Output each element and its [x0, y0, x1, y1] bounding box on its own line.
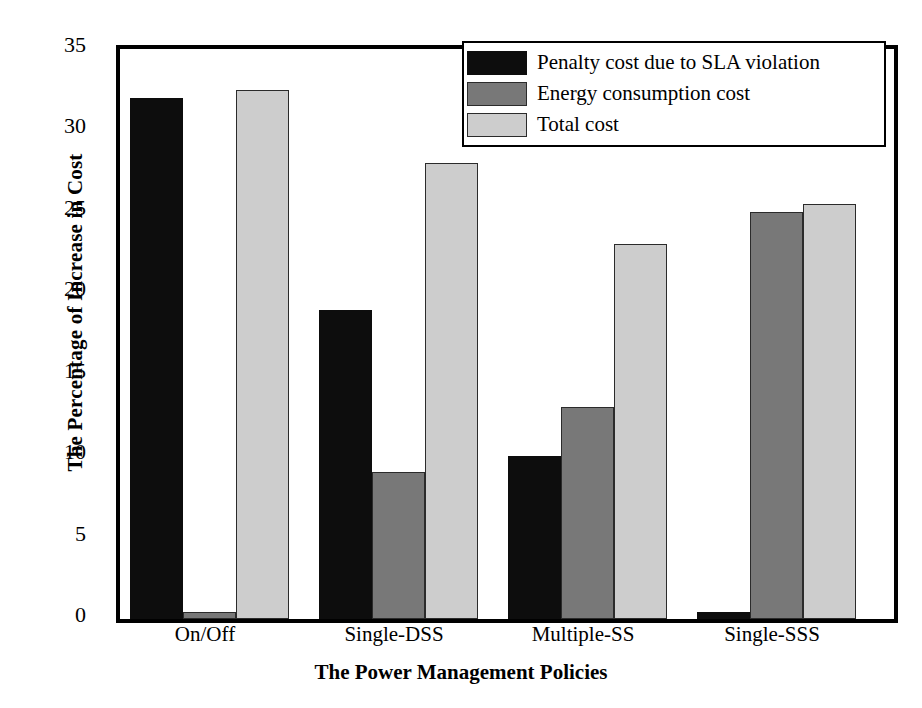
legend-swatch-icon-energy [467, 82, 527, 106]
legend-label-total: Total cost [537, 114, 619, 135]
bar [561, 407, 614, 619]
y-tick-10: 10 [40, 441, 86, 463]
bar [697, 612, 750, 619]
bar [130, 98, 183, 619]
bar [372, 472, 425, 619]
legend-entry-total-cost: Total cost [467, 109, 881, 140]
x-tick-single-dss: Single-DSS [344, 622, 443, 647]
x-axis-title: The Power Management Policies [0, 660, 922, 685]
y-tick-20: 20 [40, 278, 86, 300]
bar [236, 90, 289, 619]
y-tick-30: 30 [40, 115, 86, 137]
legend: Penalty cost due to SLA violation Energy… [462, 41, 886, 147]
bar [508, 456, 561, 619]
scan-artifact [0, 0, 922, 6]
y-tick-25: 25 [40, 197, 86, 219]
bar [803, 204, 856, 619]
legend-swatch-icon-total [467, 113, 527, 137]
bar [614, 244, 667, 619]
legend-swatch-icon-penalty [467, 51, 527, 75]
y-tick-0: 0 [40, 604, 86, 626]
bar-chart-figure: The Percentage of Increase in Cost 0 5 1… [0, 0, 922, 708]
x-tick-single-sss: Single-SSS [724, 622, 820, 647]
y-tick-35: 35 [40, 34, 86, 56]
x-tick-on-off: On/Off [175, 622, 235, 647]
legend-entry-penalty-cost: Penalty cost due to SLA violation [467, 47, 881, 78]
bar [425, 163, 478, 619]
x-tick-multiple-ss: Multiple-SS [532, 622, 635, 647]
bar [183, 612, 236, 619]
bar [319, 310, 372, 619]
legend-entry-energy-cost: Energy consumption cost [467, 78, 881, 109]
y-axis-tick-labels: 0 5 10 15 20 25 30 35 [40, 0, 86, 708]
legend-label-penalty: Penalty cost due to SLA violation [537, 52, 820, 73]
legend-label-energy: Energy consumption cost [537, 83, 750, 104]
y-tick-15: 15 [40, 360, 86, 382]
bar [750, 212, 803, 619]
y-tick-5: 5 [40, 523, 86, 545]
